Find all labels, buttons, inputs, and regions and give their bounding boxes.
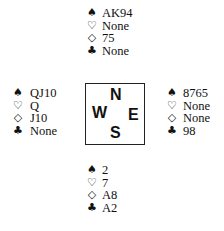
east-clubs-row: ♣ 98 <box>165 125 210 138</box>
club-icon: ♣ <box>11 125 25 138</box>
south-hand: ♠ 2 ♡ 7 ◇ A8 ♣ A2 <box>85 164 117 214</box>
north-diamonds: 75 <box>99 32 115 45</box>
east-hand: ♠ 8765 ♡ None ◇ None ♣ 98 <box>165 87 210 137</box>
north-spades: AK94 <box>99 7 133 20</box>
club-icon: ♣ <box>85 45 99 58</box>
south-diamonds: A8 <box>99 189 117 202</box>
south-diamonds-row: ◇ A8 <box>85 189 117 202</box>
diamond-icon: ◇ <box>85 32 99 45</box>
compass-north-label: N <box>110 87 122 103</box>
club-icon: ♣ <box>85 202 99 215</box>
south-clubs: A2 <box>99 202 117 215</box>
spade-icon: ♠ <box>11 87 25 100</box>
spade-icon: ♠ <box>85 164 99 177</box>
spade-icon: ♠ <box>85 7 99 20</box>
spade-icon: ♠ <box>165 87 179 100</box>
south-spades: 2 <box>99 164 108 177</box>
east-spades-row: ♠ 8765 <box>165 87 210 100</box>
west-diamonds-row: ◇ J10 <box>11 112 57 125</box>
diamond-icon: ◇ <box>11 112 25 125</box>
club-icon: ♣ <box>165 125 179 138</box>
east-diamonds-row: ◇ None <box>165 112 210 125</box>
west-spades: QJ10 <box>25 87 56 100</box>
west-diamonds: J10 <box>25 112 47 125</box>
compass-box: N W E S <box>85 83 145 145</box>
north-diamonds-row: ◇ 75 <box>85 32 133 45</box>
diamond-icon: ◇ <box>85 189 99 202</box>
north-hand: ♠ AK94 ♡ None ◇ 75 ♣ None <box>85 7 133 57</box>
west-spades-row: ♠ QJ10 <box>11 87 57 100</box>
north-clubs: None <box>99 45 129 58</box>
compass-east-label: E <box>128 107 139 123</box>
east-diamonds: None <box>179 112 210 125</box>
north-clubs-row: ♣ None <box>85 45 133 58</box>
west-clubs-row: ♣ None <box>11 125 57 138</box>
compass-west-label: W <box>92 105 107 121</box>
west-hand: ♠ QJ10 ♡ Q ◇ J10 ♣ None <box>11 87 57 137</box>
east-spades: 8765 <box>179 87 208 100</box>
east-clubs: 98 <box>179 125 196 138</box>
north-spades-row: ♠ AK94 <box>85 7 133 20</box>
diamond-icon: ◇ <box>165 112 179 125</box>
south-spades-row: ♠ 2 <box>85 164 117 177</box>
compass-south-label: S <box>110 125 121 141</box>
west-clubs: None <box>25 125 57 138</box>
south-clubs-row: ♣ A2 <box>85 202 117 215</box>
